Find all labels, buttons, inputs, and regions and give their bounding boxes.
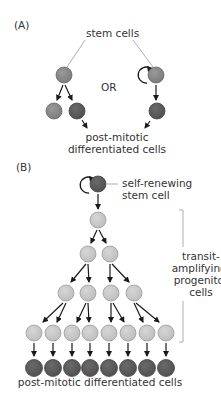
- self-renewing-label-line2: stem cell: [122, 189, 170, 201]
- differentiated-cell: [139, 360, 156, 377]
- differentiated-cell: [82, 360, 99, 377]
- differentiated-cell: [26, 360, 43, 377]
- arrow-left-daughter-2: [65, 85, 72, 100]
- panel-a-label: (A): [14, 19, 29, 31]
- progenitor-cell: [126, 285, 142, 301]
- differentiated-row: [26, 360, 175, 377]
- arrow: [71, 264, 86, 282]
- bottom-post-mitotic-label: post-mitotic differentiated cells: [18, 376, 182, 388]
- arrow-left-daughter-1: [57, 85, 63, 100]
- progenitor-row-8: [26, 325, 174, 341]
- differentiated-cell: [120, 360, 137, 377]
- daughter-differentiated-cell: [69, 103, 85, 119]
- differentiated-cell-right: [149, 103, 165, 119]
- arrow: [134, 303, 143, 322]
- arrow: [99, 230, 106, 243]
- bracket-bottom: [179, 301, 183, 342]
- progenitor-cell: [120, 325, 136, 341]
- panel-b-label: (B): [16, 161, 31, 173]
- arrow: [43, 303, 63, 322]
- stem-cell-diagram: (A) stem cells OR post-mitotic different…: [0, 0, 221, 401]
- stem-cell-left: [56, 67, 72, 83]
- progenitor-cell: [103, 285, 119, 301]
- arrow: [91, 230, 97, 243]
- progenitor-cell: [158, 325, 174, 341]
- arrow: [113, 303, 124, 322]
- arrow-to-post-mitotic-right: [145, 121, 150, 128]
- differentiated-cell: [45, 360, 62, 377]
- leader-line-left: [67, 40, 85, 67]
- differentiated-cell: [158, 360, 175, 377]
- progenitor-cell: [58, 285, 74, 301]
- differentiated-cell: [64, 360, 81, 377]
- progenitor-cell: [90, 212, 106, 228]
- post-mitotic-label-line1: post-mitotic: [86, 131, 149, 143]
- bracket-label-line2: amplifying/: [172, 262, 221, 274]
- panel-b: (B) self-renewing stem cell: [16, 161, 221, 388]
- differentiation-arrows: [34, 343, 166, 356]
- stem-cells-label: stem cells: [86, 27, 139, 39]
- arrow-to-post-mitotic-left: [82, 120, 87, 128]
- progenitor-cell: [26, 325, 42, 341]
- leader-line-right: [133, 40, 153, 67]
- bracket-top: [179, 210, 183, 247]
- progenitor-cell: [82, 325, 98, 341]
- stem-cell-right: [148, 67, 164, 83]
- bracket-label-line1: transit-: [182, 250, 220, 262]
- daughter-stem-cell: [46, 103, 62, 119]
- arrow: [88, 264, 89, 282]
- progenitor-cell: [101, 325, 117, 341]
- bracket-label-line4: cells: [189, 286, 213, 298]
- panel-a: (A) stem cells OR post-mitotic different…: [14, 19, 166, 155]
- progenitor-cell: [139, 325, 155, 341]
- arrow: [136, 303, 159, 322]
- progenitor-cell: [80, 285, 96, 301]
- progenitor-cell: [102, 246, 118, 262]
- progenitor-cell: [45, 325, 61, 341]
- differentiated-cell: [101, 360, 118, 377]
- arrow: [88, 303, 89, 322]
- progenitor-cell: [64, 325, 80, 341]
- bracket-label-line3: progenitor: [174, 274, 221, 286]
- arrow: [112, 264, 129, 282]
- self-renewing-stem-cell: [90, 176, 106, 192]
- or-label: OR: [101, 81, 117, 93]
- arrow: [77, 303, 86, 322]
- self-renewing-label-line1: self-renewing: [122, 177, 192, 189]
- post-mitotic-label-line2: differentiated cells: [68, 143, 166, 155]
- progenitor-cell: [80, 246, 96, 262]
- arrow: [57, 303, 66, 322]
